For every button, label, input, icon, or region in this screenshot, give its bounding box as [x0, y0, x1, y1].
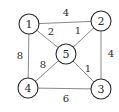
node-2: 2	[91, 11, 111, 31]
nodes-group: 1 2 3 4 5	[18, 11, 111, 99]
node-1: 1	[19, 14, 39, 34]
edge-weight-4-3: 6	[63, 93, 69, 104]
edge-weight-1-5: 2	[48, 26, 54, 37]
edge-weight-1-4: 8	[17, 50, 23, 61]
node-3: 3	[91, 79, 111, 99]
node-4: 4	[18, 78, 38, 98]
node-2-label: 2	[98, 15, 105, 28]
edge-weight-5-4: 8	[40, 59, 46, 70]
graph-diagram: 4 2 1 8 4 8 1 6 1 2 3 4 5	[0, 0, 119, 112]
edge-weight-2-3: 4	[108, 48, 114, 59]
node-1-label: 1	[26, 18, 33, 31]
edge-1-2	[29, 21, 101, 24]
node-3-label: 3	[98, 83, 105, 96]
edge-weight-5-3: 1	[85, 63, 91, 74]
edge-4-3	[28, 88, 101, 89]
node-4-label: 4	[25, 82, 32, 95]
node-5-label: 5	[63, 48, 70, 61]
node-5: 5	[56, 44, 76, 64]
edge-weight-5-2: 1	[75, 25, 81, 36]
edge-weight-1-2: 4	[63, 7, 69, 18]
